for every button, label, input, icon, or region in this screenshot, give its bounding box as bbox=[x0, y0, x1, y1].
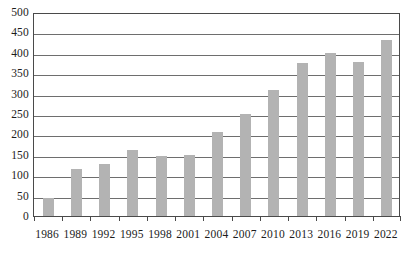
bar bbox=[297, 63, 308, 216]
bar bbox=[240, 114, 251, 216]
bar bbox=[381, 40, 392, 216]
x-axis-tick bbox=[345, 216, 346, 221]
x-axis-tick bbox=[316, 216, 317, 221]
x-axis-tick bbox=[147, 216, 148, 221]
y-axis: 500450400350300250200150100500 bbox=[0, 0, 33, 255]
bar bbox=[212, 132, 223, 216]
x-axis-tick bbox=[34, 216, 35, 221]
x-tick-label: 2010 bbox=[261, 228, 285, 241]
plot-area bbox=[33, 13, 400, 217]
x-axis-tick bbox=[288, 216, 289, 221]
x-axis-tick bbox=[232, 216, 233, 221]
x-tick-label: 2019 bbox=[346, 228, 370, 241]
y-tick-label: 500 bbox=[11, 7, 29, 19]
x-tick-label: 1995 bbox=[120, 228, 144, 241]
x-tick-label: 2004 bbox=[205, 228, 229, 241]
x-axis-tick bbox=[62, 216, 63, 221]
bar bbox=[268, 90, 279, 216]
x-tick-label: 2013 bbox=[289, 228, 313, 241]
x-tick-label: 2022 bbox=[374, 228, 398, 241]
x-axis-tick bbox=[119, 216, 120, 221]
bar bbox=[184, 155, 195, 216]
bar bbox=[99, 164, 110, 216]
x-tick-label: 1998 bbox=[148, 228, 172, 241]
x-axis-tick bbox=[203, 216, 204, 221]
x-tick-label: 2007 bbox=[233, 228, 257, 241]
bar bbox=[353, 62, 364, 216]
y-tick-label: 450 bbox=[11, 28, 29, 40]
y-tick-label: 150 bbox=[11, 150, 29, 162]
y-tick-label: 0 bbox=[23, 211, 29, 223]
y-tick-label: 50 bbox=[17, 191, 29, 203]
x-tick-label: 1992 bbox=[92, 228, 116, 241]
y-tick-label: 200 bbox=[11, 130, 29, 142]
x-tick-label: 1989 bbox=[63, 228, 87, 241]
y-tick-label: 300 bbox=[11, 89, 29, 101]
bar bbox=[156, 156, 167, 216]
y-tick-label: 350 bbox=[11, 68, 29, 80]
bar-chart: 500450400350300250200150100500 198619891… bbox=[0, 0, 408, 255]
y-tick-label: 100 bbox=[11, 170, 29, 182]
y-tick-label: 400 bbox=[11, 48, 29, 60]
x-axis-tick bbox=[400, 216, 401, 221]
bar bbox=[43, 198, 54, 216]
x-axis-tick bbox=[175, 216, 176, 221]
x-tick-label: 2001 bbox=[176, 228, 200, 241]
x-axis-tick bbox=[90, 216, 91, 221]
x-axis: 1986198919921995199820012004200720102013… bbox=[33, 228, 400, 248]
x-axis-tick bbox=[373, 216, 374, 221]
x-axis-tick bbox=[260, 216, 261, 221]
bars-layer bbox=[34, 14, 399, 216]
x-tick-label: 2016 bbox=[318, 228, 342, 241]
bar bbox=[71, 169, 82, 216]
y-tick-label: 250 bbox=[11, 109, 29, 121]
bar bbox=[127, 150, 138, 216]
x-tick-label: 1986 bbox=[35, 228, 59, 241]
bar bbox=[325, 53, 336, 216]
